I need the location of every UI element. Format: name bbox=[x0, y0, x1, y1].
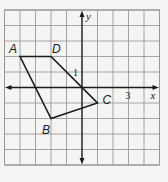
vertex-label-b: B bbox=[42, 123, 50, 137]
coordinate-plane-figure: yx13ABCD bbox=[0, 0, 168, 182]
y-tick-label-1: 1 bbox=[73, 67, 78, 78]
coordinate-plane: yx13ABCD bbox=[0, 0, 168, 182]
y-axis-label: y bbox=[85, 10, 91, 22]
vertex-label-a: A bbox=[8, 42, 17, 56]
vertex-label-d: D bbox=[52, 42, 61, 56]
x-tick-label-3: 3 bbox=[126, 90, 131, 101]
vertex-label-c: C bbox=[103, 93, 112, 107]
x-axis-label: x bbox=[150, 89, 156, 101]
